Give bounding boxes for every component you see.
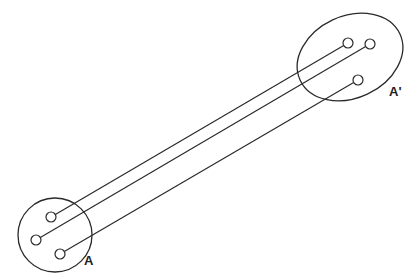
- source-point: [55, 249, 65, 259]
- label-a: A: [84, 253, 93, 268]
- target-point: [353, 75, 363, 85]
- source-point: [46, 212, 56, 222]
- target-point: [365, 39, 375, 49]
- source-point: [31, 235, 41, 245]
- connection-line: [55, 46, 343, 215]
- target-region-ellipse: [283, 0, 417, 117]
- mapping-diagram: [0, 0, 418, 276]
- connection-line: [40, 47, 365, 238]
- diagram-canvas: A A': [0, 0, 418, 276]
- connection-line: [64, 83, 353, 252]
- source-region-circle: [18, 198, 92, 272]
- label-a-prime: A': [389, 84, 401, 99]
- target-point: [343, 38, 353, 48]
